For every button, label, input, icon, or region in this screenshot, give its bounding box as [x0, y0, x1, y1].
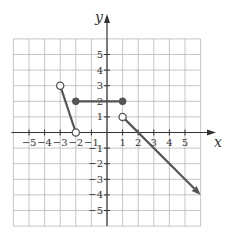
y-tick-label: 5: [97, 49, 103, 60]
open-endpoint-icon: [57, 82, 64, 89]
x-tick-label: −4: [37, 137, 52, 148]
x-axis-label: x: [214, 134, 222, 150]
y-tick-label: −5: [88, 205, 103, 216]
x-tick-label: −5: [22, 137, 37, 148]
x-tick-label: 5: [182, 137, 188, 148]
y-tick-label: 3: [97, 80, 103, 91]
y-tick-label: −3: [88, 174, 103, 185]
x-tick-label: 4: [166, 137, 172, 148]
x-tick-label: 2: [135, 137, 141, 148]
ray-3: [123, 117, 195, 189]
x-tick-label: 1: [119, 137, 125, 148]
y-axis-label: y: [94, 9, 104, 25]
piecewise-function-graph: −5−4−3−2−11234554321−1−2−3−4−5 x y: [0, 0, 232, 241]
y-axis-arrow-icon: [104, 14, 110, 23]
y-tick-label: −1: [88, 143, 103, 154]
x-tick-label: −2: [68, 137, 83, 148]
open-endpoint-icon: [72, 129, 79, 136]
y-tick-label: −2: [88, 158, 103, 169]
closed-endpoint-icon: [72, 98, 79, 105]
x-tick-label: −3: [53, 137, 68, 148]
open-endpoint-icon: [119, 113, 126, 120]
y-tick-label: 1: [97, 111, 103, 122]
y-tick-label: 4: [97, 65, 103, 76]
segment-1: [60, 86, 76, 133]
closed-endpoint-icon: [119, 98, 126, 105]
y-tick-label: −4: [88, 189, 103, 200]
